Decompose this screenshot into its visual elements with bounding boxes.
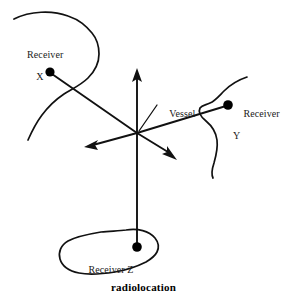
receiver-z-dot [132, 242, 142, 252]
radiolocation-figure: Receiver X Receiver Y Receiver Z Vessel … [0, 0, 287, 301]
receiver-x-label-line2: X [10, 71, 70, 82]
figure-caption: radiolocation [0, 281, 287, 293]
receiver-x-label: Receiver X [10, 38, 70, 104]
receiver-z-label-line1: Receiver Z [88, 264, 133, 275]
receiver-y-label-line2: Y [233, 130, 287, 141]
receiver-x-label-line1: Receiver [27, 49, 63, 60]
vessel-label: Vessel [159, 97, 209, 130]
vessel-label-text: Vessel [169, 108, 195, 119]
southeast-arrow-icon [162, 146, 177, 160]
southeast-arrow-shaft [137, 133, 168, 152]
receiver-y-label-line1: Receiver [243, 108, 279, 119]
receiver-y-label: Receiver Y [233, 97, 287, 163]
west-arrow-shaft [93, 133, 137, 145]
receiver-y-dot [223, 100, 233, 110]
